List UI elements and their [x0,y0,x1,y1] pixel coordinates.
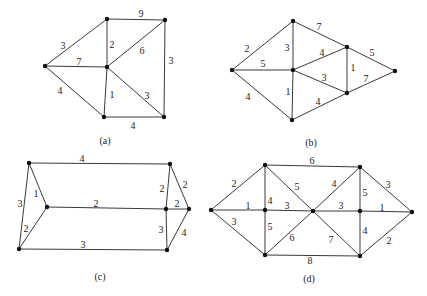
graph-node [105,65,109,69]
edge-weight-label: 4 [80,153,85,164]
edge-weight-label: 2 [175,198,180,209]
edge-weight-label: 3 [159,224,164,235]
graph-d-edge [265,255,360,256]
graph-node [291,19,295,23]
graph-node [291,68,295,72]
edge-weight-label: 7 [364,73,369,84]
edge-weight-label: 5 [363,187,368,198]
graph-d-edge [313,211,360,256]
edge-weight-label: 3 [322,72,327,83]
graph-c: 41322322234(c) [17,153,191,283]
graph-c-edge [166,209,167,250]
graph-b-edge [232,70,292,120]
graph-node [230,68,234,72]
edge-weight-label: 5 [370,47,375,58]
edge-weight-label: 2 [387,235,392,246]
edge-weight-label: 3 [169,55,174,66]
edge-weight-label: 1 [351,62,356,73]
edge-weight-label: 1 [286,86,291,97]
edge-weight-label: 6 [310,155,315,166]
graph-a-edge [107,67,164,117]
edge-weight-label: 2 [94,198,99,209]
graph-node [263,208,267,212]
edge-weight-label: 4 [182,227,187,238]
graph-d-edge [313,167,360,211]
edge-weight-label: 5 [261,58,266,69]
graph-node [345,45,349,49]
edge-weight-label: 3 [386,179,391,190]
edge-weight-label: 3 [81,239,86,250]
edge-weight-label: 7 [329,234,334,245]
edge-weight-label: 6 [290,232,295,243]
edge-weight-label: 4 [58,85,63,96]
edge-weight-label: 2 [232,178,237,189]
edge-weight-label: 3 [285,42,290,53]
graph-node [187,207,191,211]
edge-weight-label: 1 [380,202,385,213]
edge-weight-label: 3 [145,90,150,101]
edge-weight-label: 2 [110,39,115,50]
edge-weight-label: 4 [332,178,337,189]
edge-weight-label: 2 [245,43,250,54]
edge-weight-label: 7 [77,56,82,67]
graph-c-edge [29,163,170,164]
graph-node [162,115,166,119]
edge-weight-label: 3 [285,200,290,211]
edge-weight-label: 3 [61,40,66,51]
graph-c-edge [166,164,170,209]
edge-weight-label: 2 [160,183,165,194]
graph-b-edge [293,70,347,93]
edge-weight-label: 1 [246,200,251,211]
graph-a-edge [45,66,104,117]
edge-weight-label: 4 [246,91,251,102]
graph-caption: (a) [99,135,110,147]
graph-node [358,165,362,169]
graph-d-edge [360,167,412,212]
graph-c-edge [19,249,167,250]
edge-weight-label: 4 [363,225,368,236]
graph-d-edge [211,165,265,210]
edge-weight-label: 1 [34,188,39,199]
graph-node [311,209,315,213]
edge-weight-label: 9 [139,8,144,19]
graph-node [27,161,31,165]
graph-b: 254374311574(b) [230,19,397,149]
graph-d-edge [211,210,265,255]
graph-c-edge [47,207,166,209]
graph-caption: (b) [305,137,317,149]
edge-weight-label: 6 [140,45,145,56]
edge-weight-label: 2 [183,179,188,190]
edge-weight-label: 4 [131,120,136,131]
graph-node [168,162,172,166]
weighted-graphs-figure: 3749263134(a)254374311574(b)41322322234(… [0,0,427,296]
graph-node [209,208,213,212]
graph-node [165,248,169,252]
edge-weight-label: 1 [110,89,115,100]
graph-node [263,253,267,257]
graph-b-edge [347,71,395,93]
graph-node [163,18,167,22]
graph-caption: (d) [303,273,315,285]
edge-weight-label: 7 [317,21,322,32]
graph-node [290,118,294,122]
graph-node [393,69,397,73]
edge-weight-label: 4 [316,96,321,107]
graph-caption: (c) [94,271,105,283]
graph-c-edge [29,163,47,207]
edge-weight-label: 5 [268,221,273,232]
edge-weight-label: 3 [18,198,23,209]
graph-node [164,207,168,211]
edge-weight-label: 5 [295,181,300,192]
graph-node [345,91,349,95]
edge-weight-label: 3 [339,200,344,211]
edge-weight-label: 4 [268,195,273,206]
edge-weight-label: 4 [320,47,325,58]
graph-a-edge [107,19,165,20]
edge-weight-label: 2 [24,223,29,234]
graph-node [410,210,414,214]
graph-a-edge [107,20,165,67]
graph-node [105,17,109,21]
graph-node [45,205,49,209]
graph-d: 213645356843753142(d) [209,155,414,285]
graph-node [102,115,106,119]
